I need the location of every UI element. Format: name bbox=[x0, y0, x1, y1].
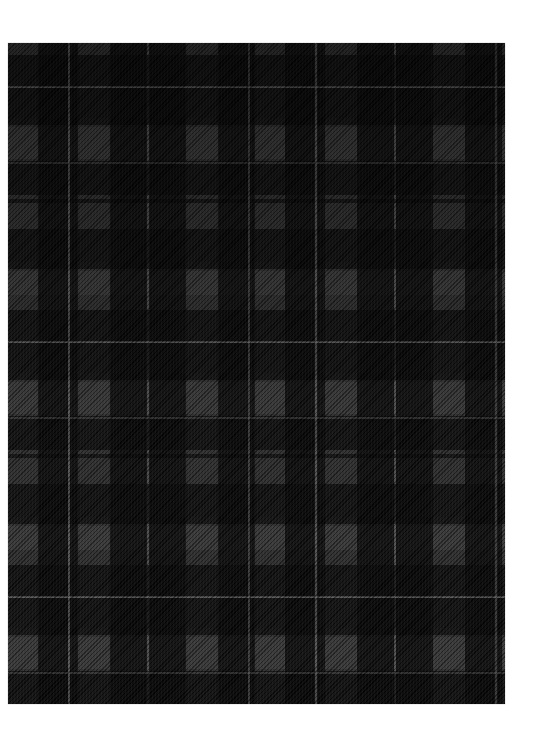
top-shading bbox=[8, 43, 505, 704]
tartan-fabric-swatch bbox=[8, 43, 505, 704]
image-canvas bbox=[0, 0, 533, 735]
